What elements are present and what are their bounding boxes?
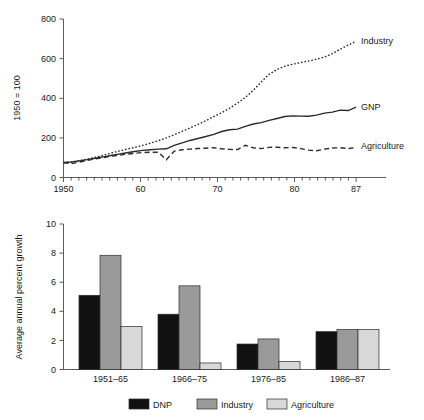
bar-chart-y-tick-labels: 0 2 4 6 8 10 [46, 219, 56, 375]
bar-industry-1976-85 [258, 339, 279, 370]
y-tick-label: 6 [51, 277, 56, 287]
bar-industry-1951-65 [100, 255, 121, 369]
category-label: 1986–87 [330, 374, 365, 384]
x-tick-label: 60 [135, 184, 145, 194]
bar-dnp-1966-75 [158, 314, 179, 369]
series-label-gnp: GNP [361, 102, 381, 112]
line-chart-y-axis-title: 1950 = 100 [12, 75, 22, 120]
y-tick-label: 200 [41, 133, 56, 143]
x-tick-label: 70 [212, 184, 222, 194]
series-line-industry [64, 41, 357, 162]
bar-industry-1966-75 [179, 286, 200, 370]
category-label: 1976–85 [251, 374, 286, 384]
charts-svg: 0 200 400 600 800 1950 = 100 [0, 0, 424, 420]
series-label-agriculture: Agriculture [361, 141, 404, 151]
bar-chart-y-axis-title: Average annual percent growth [14, 235, 24, 360]
legend-label-dnp: DNP [153, 400, 172, 410]
y-tick-label: 600 [41, 54, 56, 64]
category-label: 1966–75 [172, 374, 207, 384]
bar-industry-1986-87 [337, 329, 358, 369]
y-tick-label: 800 [41, 14, 56, 24]
bar-chart-category-labels: 1951–65 1966–75 1976–85 1986–87 [93, 374, 365, 384]
bar-chart-legend: DNP Industry Agriculture [129, 399, 334, 410]
line-chart: 0 200 400 600 800 1950 = 100 [12, 14, 404, 194]
bar-dnp-1986-87 [316, 332, 337, 370]
line-chart-y-tick-labels: 0 200 400 600 800 [41, 14, 56, 182]
bar-agriculture-1976-85 [279, 362, 300, 370]
x-tick-label: 80 [289, 184, 299, 194]
bar-group-container [79, 255, 379, 369]
y-tick-label: 8 [51, 248, 56, 258]
line-chart-y-ticks [60, 19, 64, 178]
y-tick-label: 2 [51, 336, 56, 346]
bar-agriculture-1966-75 [200, 363, 221, 370]
legend-label-agriculture: Agriculture [291, 400, 334, 410]
series-line-agriculture [64, 145, 357, 163]
bar-chart: 0 2 4 6 8 10 Average annual percent grow… [14, 219, 390, 410]
x-tick-label: 1950 [53, 184, 73, 194]
figure-container: 0 200 400 600 800 1950 = 100 [0, 0, 424, 420]
bar-dnp-1951-65 [79, 295, 100, 369]
legend-swatch-dnp [129, 399, 149, 409]
bar-agriculture-1951-65 [121, 327, 142, 370]
y-tick-label: 400 [41, 93, 56, 103]
y-tick-label: 0 [51, 365, 56, 375]
y-tick-label: 0 [51, 173, 56, 183]
line-chart-x-tick-labels: 1950 60 70 80 87 [53, 184, 361, 194]
legend-swatch-agriculture [267, 399, 287, 409]
bar-agriculture-1986-87 [358, 329, 379, 369]
series-line-gnp [64, 107, 357, 162]
x-tick-label: 87 [351, 184, 361, 194]
bar-dnp-1976-85 [237, 344, 258, 369]
y-tick-label: 4 [51, 306, 56, 316]
series-label-industry: Industry [361, 36, 394, 46]
y-tick-label: 10 [46, 219, 56, 229]
legend-swatch-industry [197, 399, 217, 409]
legend-label-industry: Industry [221, 400, 254, 410]
category-label: 1951–65 [93, 374, 128, 384]
bar-chart-y-ticks [60, 224, 64, 370]
